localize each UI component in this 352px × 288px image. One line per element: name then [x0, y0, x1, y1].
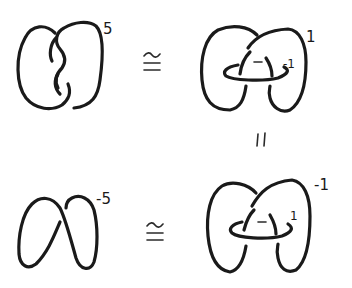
cong-symbol-top — [144, 53, 160, 70]
bl-framing-label: -5 — [96, 192, 111, 207]
br-inner-framing-label: 1 — [290, 210, 298, 222]
tl-framing-label: 5 — [103, 22, 113, 37]
tr-inner-framing-label: -1 — [283, 58, 295, 70]
br-outer-framing-label: -1 — [314, 178, 329, 193]
bottom-left-knot — [19, 197, 97, 269]
top-left-knot — [18, 22, 102, 108]
equals-symbol-vertical — [257, 133, 265, 146]
cong-symbol-bottom — [147, 223, 163, 240]
bottom-right-knot — [208, 180, 310, 272]
tr-outer-framing-label: 1 — [306, 30, 316, 45]
knot-diagram-canvas — [0, 0, 352, 288]
